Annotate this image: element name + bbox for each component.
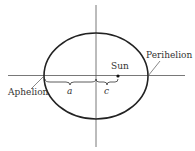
- brace-c: [96, 79, 118, 85]
- perihelion-leader: [148, 61, 160, 76]
- orbit-diagram: Perihelion Sun Aphelion a c: [0, 0, 195, 151]
- brace-a: [45, 79, 96, 85]
- perihelion-label: Perihelion: [146, 51, 192, 60]
- orbit-svg: [0, 0, 195, 151]
- aphelion-label: Aphelion: [8, 88, 48, 97]
- focal-distance-label: c: [104, 87, 109, 96]
- sun-marker: [116, 74, 119, 77]
- sun-label: Sun: [111, 62, 129, 71]
- semi-major-axis-label: a: [67, 87, 72, 96]
